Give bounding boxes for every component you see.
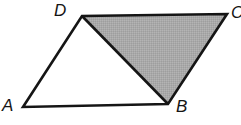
- vertex-label-d: D: [54, 2, 66, 19]
- figure-canvas: [0, 0, 241, 125]
- geometry-figure: A B C D: [0, 0, 241, 125]
- vertex-label-a: A: [2, 97, 13, 114]
- vertex-label-c: C: [231, 4, 241, 21]
- vertex-label-b: B: [176, 98, 187, 115]
